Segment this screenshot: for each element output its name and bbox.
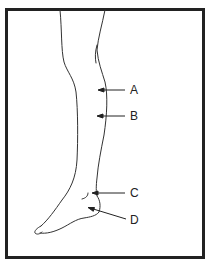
- ankle-malleolus-mark: [82, 193, 88, 199]
- label-a: A: [130, 84, 138, 96]
- arrow-a-head: [98, 88, 104, 92]
- label-b: B: [130, 110, 138, 122]
- arrow-d-head: [88, 208, 95, 212]
- toe-contour: [35, 226, 42, 234]
- leg-back-contour: [41, 10, 78, 226]
- knee-crease: [95, 45, 97, 63]
- leg-front-contour: [40, 10, 107, 233]
- leg-diagram: [0, 0, 210, 266]
- label-c: C: [130, 187, 139, 199]
- arrow-c-head: [92, 191, 98, 195]
- label-d: D: [130, 214, 139, 226]
- arrow-b-head: [97, 114, 103, 118]
- arrow-d-line: [90, 208, 126, 219]
